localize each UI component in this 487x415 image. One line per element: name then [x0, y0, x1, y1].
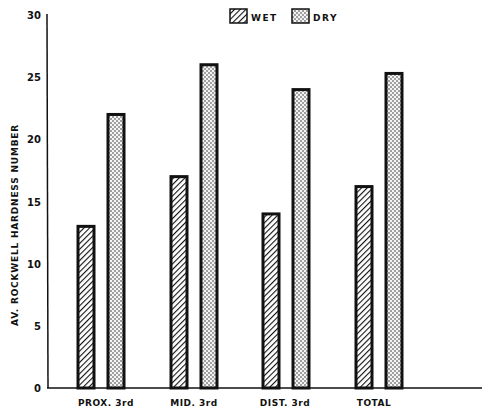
y-axis-line	[47, 14, 48, 388]
y-tick-0: 0	[34, 383, 41, 394]
y-tick-10: 10	[27, 259, 41, 270]
bar-prox-3rd-wet	[78, 226, 94, 388]
x-category-labels: PROX. 3rd MID. 3rd DIST. 3rd TOTAL	[78, 398, 391, 408]
bar-mid-3rd-dry	[201, 65, 217, 388]
bar-prox-3rd-dry	[108, 114, 124, 388]
y-tick-5: 5	[34, 321, 41, 332]
y-tick-20: 20	[27, 134, 41, 145]
bar-total-wet	[356, 187, 372, 388]
x-label-dist: DIST. 3rd	[260, 398, 310, 408]
bar-dist-3rd-dry	[293, 90, 309, 388]
bar-total-dry	[386, 73, 402, 388]
y-tick-labels: 30 25 20 15 10 5 0	[27, 10, 41, 394]
x-label-total: TOTAL	[357, 398, 391, 408]
bar-dist-3rd-wet	[263, 214, 279, 388]
bars-group	[78, 65, 402, 388]
x-label-prox: PROX. 3rd	[78, 398, 134, 408]
legend-wet-label: WET	[251, 13, 278, 23]
bar-chart: AV. ROCKWELL HARDNESS NUMBER 30 25 20 15…	[0, 0, 487, 415]
y-axis-title: AV. ROCKWELL HARDNESS NUMBER	[10, 124, 20, 326]
bar-mid-3rd-wet	[171, 177, 187, 388]
legend-dry-swatch	[292, 9, 309, 23]
x-label-mid: MID. 3rd	[170, 398, 217, 408]
legend-wet-swatch	[230, 9, 247, 23]
legend-dry-label: DRY	[313, 13, 338, 23]
legend: WET DRY	[230, 9, 338, 23]
y-tick-15: 15	[27, 197, 41, 208]
y-tick-25: 25	[27, 72, 41, 83]
y-tick-30: 30	[27, 10, 41, 21]
